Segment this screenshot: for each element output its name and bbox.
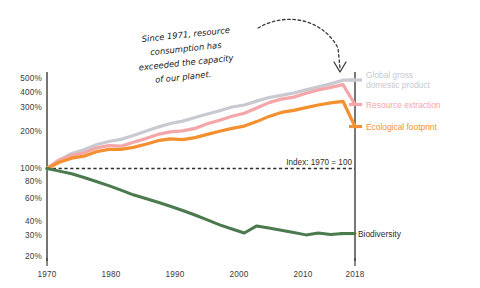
index-reference-label: Index: 1970 = 100 (286, 158, 352, 167)
y-tick-60: 60% (25, 194, 42, 203)
legend-label-gdp-line1: Global gross (366, 70, 413, 80)
index-line-chart: 500% 400% 300% 200% 100% 80% 60% 40% 30%… (0, 0, 480, 288)
legend-label-biodiversity: Biodiversity (358, 229, 402, 239)
y-tick-400: 400% (20, 88, 42, 97)
y-tick-80: 80% (25, 177, 42, 186)
annotation-line-4: of our planet. (155, 69, 212, 85)
legend-label-resource-extraction: Resource extraction (366, 100, 441, 110)
y-tick-100: 100% (20, 164, 42, 173)
x-tick-1990: 1990 (165, 270, 184, 279)
y-tick-40: 40% (25, 217, 42, 226)
series-line-resource-extraction (47, 85, 355, 169)
y-tick-20: 20% (25, 252, 42, 261)
series-line-biodiversity (47, 169, 355, 235)
x-tick-2018: 2018 (345, 270, 364, 279)
y-tick-30: 30% (25, 231, 42, 240)
y-tick-300: 300% (20, 103, 42, 112)
legend-label-gdp-line2: domestic product (366, 80, 430, 90)
x-tick-1980: 1980 (101, 270, 120, 279)
x-tick-2000: 2000 (229, 270, 248, 279)
y-tick-200: 200% (20, 127, 42, 136)
annotation-note: Since 1971, resource consumption has exc… (135, 25, 236, 87)
x-tick-1970: 1970 (37, 270, 56, 279)
y-tick-500: 500% (20, 74, 42, 83)
legend-label-ecological-footprint: Ecological footprint (366, 122, 437, 132)
x-tick-2010: 2010 (293, 270, 312, 279)
annotation-arrow-curve (258, 19, 340, 68)
chart-container: 500% 400% 300% 200% 100% 80% 60% 40% 30%… (0, 0, 480, 288)
